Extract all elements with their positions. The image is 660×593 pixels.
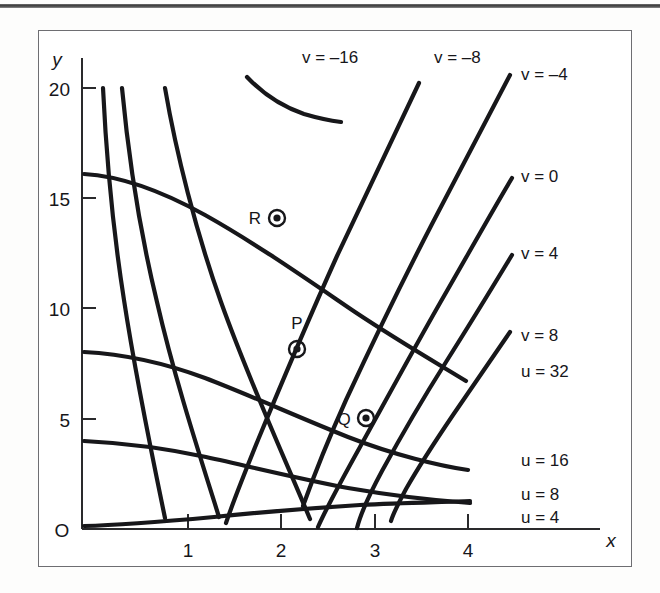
y-tick-label-5: 5 — [59, 410, 70, 431]
origin-label: O — [55, 520, 70, 541]
label-u-4: u = 4 — [521, 508, 559, 527]
y-tick-label-20: 20 — [49, 79, 70, 100]
coordinate-plot: y x O 20 15 10 5 1 2 3 4 v = –16 v = –8 … — [0, 0, 660, 593]
curve-v-left-2 — [122, 88, 219, 517]
curve-v-minus16 — [247, 77, 341, 122]
curve-u-4 — [84, 501, 470, 526]
label-v-minus-16: v = –16 — [302, 48, 358, 67]
point-label-Q: Q — [337, 410, 350, 429]
label-u-32: u = 32 — [521, 362, 569, 381]
curve-u-32 — [84, 174, 466, 381]
curve-labels-group: v = –16 v = –8 v = –4 v = 0 v = 4 v = 8 … — [302, 48, 569, 527]
label-v-8: v = 8 — [521, 326, 558, 345]
label-v-0: v = 0 — [521, 167, 558, 186]
label-u-8: u = 8 — [521, 485, 559, 504]
curve-v-4 — [357, 255, 512, 528]
point-marker-P-core — [293, 345, 300, 352]
curve-v-minus4 — [303, 75, 510, 506]
y-axis-label: y — [50, 49, 63, 70]
y-tick-label-10: 10 — [49, 299, 70, 320]
x-tick-label-1: 1 — [183, 540, 194, 561]
point-marker-Q-core — [362, 414, 369, 421]
v-curves-group — [103, 75, 512, 528]
label-v-minus-4: v = –4 — [521, 65, 568, 84]
label-u-16: u = 16 — [521, 451, 569, 470]
point-label-R: R — [249, 209, 261, 228]
point-marker-R-core — [273, 214, 280, 221]
label-v-minus-8: v = –8 — [434, 48, 481, 67]
x-tick-label-2: 2 — [276, 540, 287, 561]
point-label-P: P — [291, 314, 302, 333]
figure-page: y x O 20 15 10 5 1 2 3 4 v = –16 v = –8 … — [0, 0, 660, 593]
label-v-4: v = 4 — [521, 244, 558, 263]
x-tick-label-3: 3 — [370, 540, 381, 561]
curve-u-8 — [84, 441, 470, 503]
y-tick-label-15: 15 — [49, 189, 70, 210]
x-axis-label: x — [605, 530, 617, 551]
x-tick-label-4: 4 — [463, 540, 474, 561]
